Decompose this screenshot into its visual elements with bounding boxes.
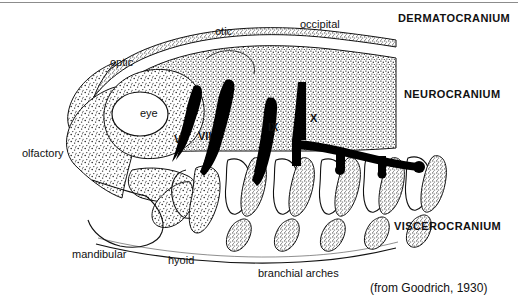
- label-optic: optic: [110, 57, 133, 68]
- label-nerve-x: X: [310, 113, 317, 124]
- branchial-arch: [273, 158, 314, 252]
- label-eye: eye: [140, 108, 158, 119]
- label-neurocranium: NEUROCRANIUM: [404, 89, 500, 100]
- figure-page: optic otic occipital eye olfactory mandi…: [0, 0, 518, 299]
- label-nerve-v: V: [174, 134, 181, 145]
- label-dermatocranium: DERMATOCRANIUM: [398, 13, 510, 24]
- label-viscerocranium: VISCEROCRANIUM: [394, 221, 501, 232]
- label-olfactory: olfactory: [22, 148, 64, 159]
- label-nerve-vii: VII: [198, 131, 211, 142]
- label-otic: otic: [215, 26, 232, 37]
- label-hyoid: hyoid: [168, 255, 194, 266]
- label-mandibular: mandibular: [72, 249, 126, 260]
- figure-source-caption: (from Goodrich, 1930): [370, 282, 487, 294]
- label-nerve-ix: IX: [268, 122, 278, 133]
- label-branchial-arches: branchial arches: [258, 268, 339, 279]
- label-occipital: occipital: [300, 19, 340, 30]
